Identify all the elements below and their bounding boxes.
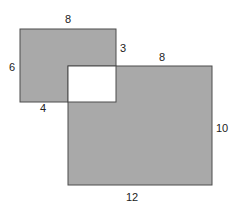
label-small-bottom: 4 — [40, 102, 46, 114]
overlapping-rectangles-diagram: 8 6 4 3 8 10 12 — [0, 0, 239, 208]
label-large-top: 8 — [159, 51, 165, 63]
label-small-left: 6 — [9, 61, 15, 73]
label-large-bottom: 12 — [126, 191, 138, 203]
label-overlap-right: 3 — [120, 42, 126, 54]
overlap-region — [68, 66, 116, 102]
label-small-top: 8 — [65, 13, 71, 25]
label-large-right: 10 — [216, 122, 228, 134]
